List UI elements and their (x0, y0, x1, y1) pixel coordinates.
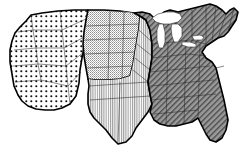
united-states-map (0, 0, 244, 153)
lake-superior-shape (152, 12, 182, 24)
region-east (134, 4, 238, 142)
lake-michigan-shape (157, 24, 165, 48)
map-container (0, 0, 244, 153)
region-west (10, 10, 88, 110)
region-great-plains (83, 10, 140, 80)
